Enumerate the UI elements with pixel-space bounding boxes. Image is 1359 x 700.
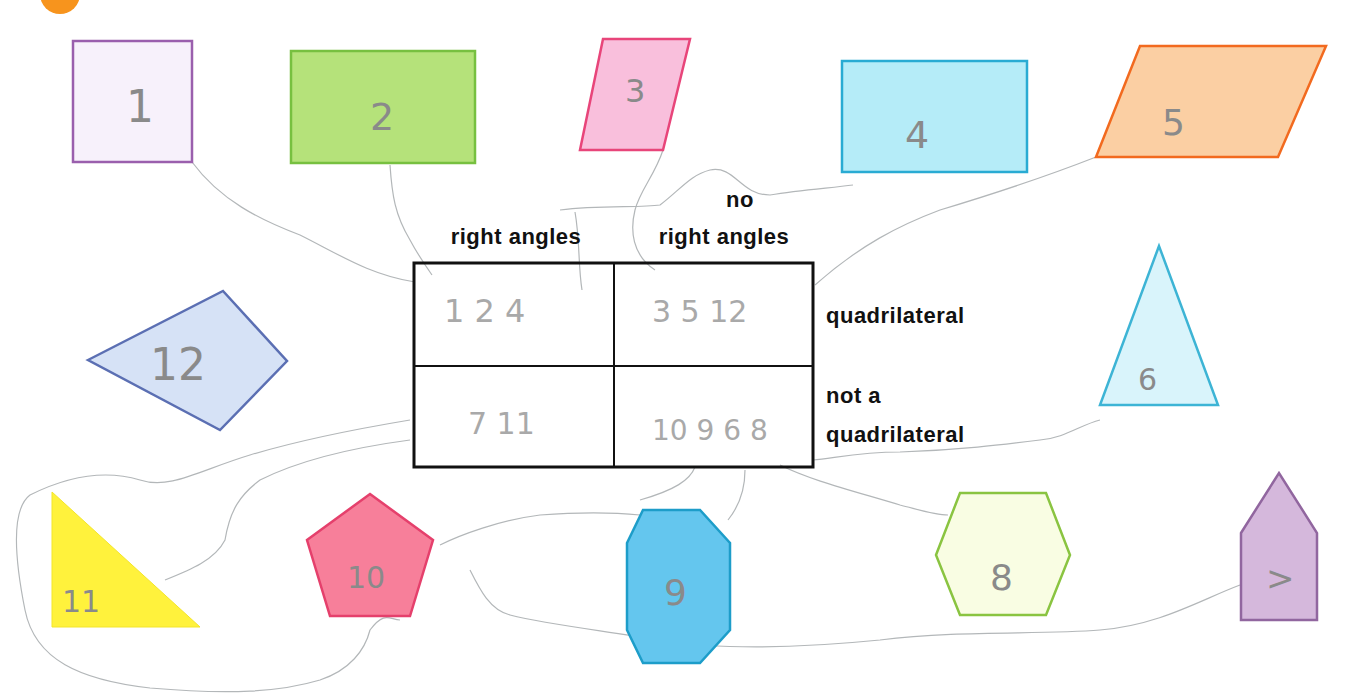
shape-11-right-triangle: 11	[52, 492, 200, 627]
cell-notquad-no-right-angles: 10 9 6 8	[652, 414, 768, 447]
col-header-no-right-line1: no	[726, 187, 754, 212]
shape-label: >	[1266, 558, 1295, 598]
col-header-right-angles: right angles	[451, 224, 582, 249]
shape-label: 1	[126, 81, 154, 132]
shape-label: 12	[150, 339, 206, 390]
row-headers: quadrilateral not a quadrilateral	[826, 303, 965, 447]
shape-label: 9	[664, 572, 687, 613]
shape-label: 5	[1162, 102, 1185, 143]
row-header-not-quadrilateral: quadrilateral	[826, 422, 965, 447]
shape-label: 11	[62, 584, 100, 619]
shape-label: 4	[905, 113, 929, 157]
shape-label: 2	[370, 95, 394, 139]
shape-6-triangle: 6	[1100, 246, 1218, 405]
shape-5-parallelogram: 5	[1096, 46, 1326, 157]
shape-12-kite: 12	[88, 291, 287, 430]
row-header-not-a: not a	[826, 383, 881, 408]
question-number-badge	[40, 0, 80, 14]
shape-label: 8	[990, 557, 1013, 598]
col-header-no-right-line2: right angles	[659, 224, 790, 249]
cell-notquad-right-angles: 7 11	[468, 406, 535, 441]
carroll-table: 1 2 4 3 5 12 7 11 10 9 6 8	[414, 263, 813, 467]
shape-3-rhombus: 3	[580, 39, 690, 150]
shape-label: 10	[347, 560, 385, 595]
shape-9-octagon: 9	[627, 510, 730, 663]
cell-quad-no-right-angles: 3 5 12	[652, 294, 747, 329]
shape-7-house-pentagon: >	[1241, 473, 1317, 620]
shape-label: 6	[1138, 362, 1157, 397]
row-header-quadrilateral: quadrilateral	[826, 303, 965, 328]
shape-2-rectangle: 2	[291, 51, 475, 163]
shape-8-hexagon: 8	[936, 493, 1070, 615]
shape-label: 3	[625, 72, 645, 110]
sorting-diagram: 1 2 3 4 5 12 6 11 10 9	[0, 0, 1359, 700]
shape-10-pentagon: 10	[307, 494, 433, 616]
column-headers: no right angles right angles	[451, 187, 790, 249]
cell-quad-right-angles: 1 2 4	[444, 292, 525, 330]
shape-1-square: 1	[73, 41, 192, 162]
shape-4-rectangle: 4	[842, 61, 1027, 172]
